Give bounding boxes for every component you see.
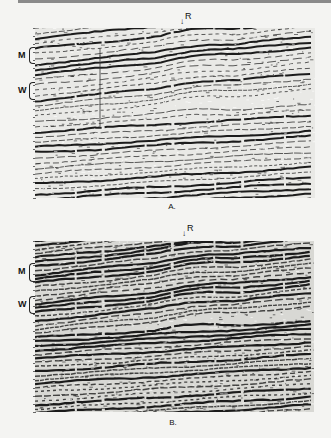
axis-tick <box>33 198 36 199</box>
horizon-label-w-b: W <box>18 299 27 309</box>
caption-b: B. <box>163 418 183 427</box>
seismic-section-b <box>35 241 314 412</box>
marker-label: R <box>187 224 194 233</box>
marker-label: R <box>185 12 192 21</box>
horizon-label-m-a: M <box>18 50 26 60</box>
axis-tick <box>33 412 36 413</box>
horizon-label-m-b: M <box>18 266 26 276</box>
down-arrow-icon: ↓ <box>182 229 186 238</box>
page-edge-bar <box>18 0 331 3</box>
caption-a: A. <box>162 202 182 211</box>
seismic-section-a <box>35 28 315 198</box>
down-arrow-icon: ↓ <box>180 17 184 26</box>
horizon-label-w-a: W <box>18 85 27 95</box>
